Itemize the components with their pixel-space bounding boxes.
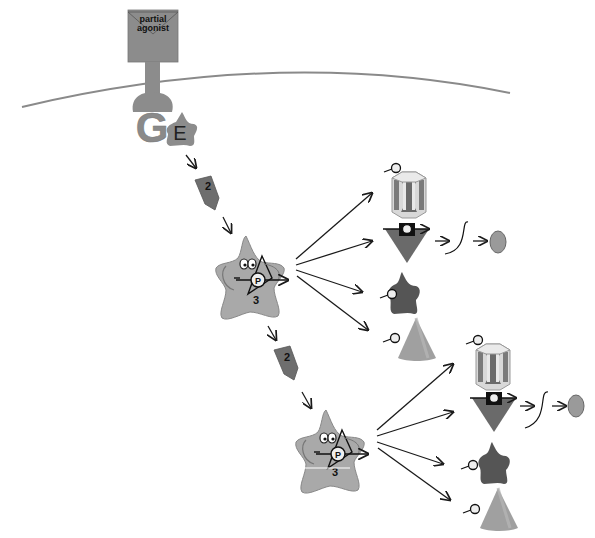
lower-fan-arrows: [377, 364, 453, 500]
kinase-label: 3: [253, 294, 259, 306]
receptor-label-line2: agonist: [137, 23, 169, 33]
signaling-diagram: partial agonist G E 2 P 3 2 P 3: [0, 0, 595, 538]
arrow-kinase-to-messenger: [268, 326, 276, 340]
phospho-tag: [466, 336, 483, 345]
mrna-squiggle: [525, 392, 548, 428]
arrow-ge-to-messenger: [186, 155, 196, 168]
kinase-phospho-label: P: [335, 450, 341, 460]
upper-fan-arrows: [296, 193, 372, 330]
g-protein-label: G: [136, 104, 169, 151]
kinase-phospho-label: P: [255, 276, 261, 286]
cone-target: [398, 318, 436, 361]
cone-target: [480, 488, 518, 531]
protein-product: [490, 231, 506, 253]
phospho-tag: [384, 164, 401, 173]
second-messenger-label: 2: [205, 180, 211, 192]
arrow-messenger-to-kinase: [302, 392, 311, 408]
ion-channel-target: [476, 344, 510, 390]
phospho-tag: [461, 461, 478, 470]
triangle-target: [470, 392, 516, 432]
mrna-squiggle: [445, 222, 468, 254]
second-messenger-label: 2: [284, 351, 290, 363]
effector-label: E: [173, 122, 186, 144]
triangle-target: [383, 223, 429, 263]
phospho-tag: [380, 290, 397, 299]
ion-channel-target: [392, 172, 426, 218]
phospho-tag: [463, 505, 480, 514]
cell-membrane: [22, 73, 510, 107]
kinase-shape: [296, 410, 368, 493]
phospho-tag: [383, 334, 400, 343]
arrow-messenger-to-kinase: [223, 217, 231, 233]
star-target: [478, 442, 509, 484]
kinase-shape: [216, 236, 288, 319]
protein-product: [568, 395, 584, 417]
